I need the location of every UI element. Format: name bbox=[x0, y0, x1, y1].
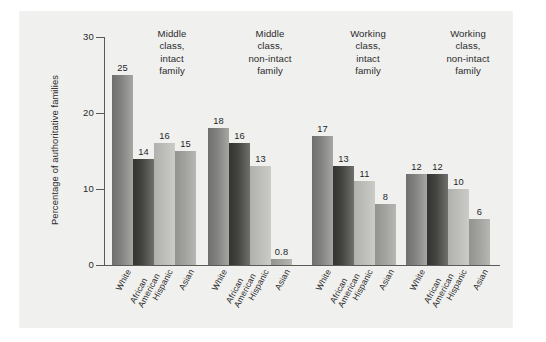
bar-value-g2-white: 18 bbox=[213, 116, 224, 126]
figure-canvas: Percentage of authoritative families 30 … bbox=[0, 0, 546, 342]
y-tick-20 bbox=[96, 113, 105, 114]
plot-area: Percentage of authoritative families 30 … bbox=[0, 0, 546, 342]
x-label-g3-asian: Asian bbox=[378, 268, 397, 292]
bar-g1-white[interactable]: 25 bbox=[112, 75, 133, 265]
group-header-3: Working class, intact family bbox=[338, 28, 398, 78]
bar-value-g3-asian: 8 bbox=[383, 192, 388, 202]
bar-value-g2-asian: 0.8 bbox=[275, 247, 289, 257]
bar-value-g4-white: 12 bbox=[411, 162, 422, 172]
bar-value-g3-african-american: 13 bbox=[338, 154, 349, 164]
bar-g1-african-american[interactable]: 14 bbox=[133, 159, 154, 265]
bar-value-g3-hispanic: 11 bbox=[359, 169, 369, 179]
bar-value-g4-asian: 6 bbox=[477, 207, 482, 217]
bar-g4-african-american[interactable]: 12 bbox=[427, 174, 448, 265]
bar-value-g1-white: 25 bbox=[117, 63, 128, 73]
y-tick-label-10: 10 bbox=[64, 183, 94, 194]
bar-value-g1-african-american: 14 bbox=[138, 147, 149, 157]
bar-g3-african-american[interactable]: 13 bbox=[333, 166, 354, 265]
x-label-g2-asian: Asian bbox=[274, 268, 293, 292]
y-tick-label-20: 20 bbox=[64, 107, 94, 118]
y-tick-10 bbox=[96, 189, 105, 190]
x-label-g1-asian: Asian bbox=[178, 268, 197, 292]
group-header-4: Working class, non-intact family bbox=[432, 28, 504, 78]
y-tick-label-30: 30 bbox=[64, 31, 94, 42]
group-header-1: Middle class, intact family bbox=[142, 28, 202, 78]
bar-value-g4-hispanic: 10 bbox=[453, 177, 464, 187]
bar-g3-asian[interactable]: 8 bbox=[375, 204, 396, 265]
bar-g4-hispanic[interactable]: 10 bbox=[448, 189, 469, 265]
group-header-2: Middle class, non-intact family bbox=[234, 28, 306, 78]
bar-g2-white[interactable]: 18 bbox=[208, 128, 229, 265]
x-label-g4-asian: Asian bbox=[472, 268, 491, 292]
bar-g3-hispanic[interactable]: 11 bbox=[354, 181, 375, 265]
bar-value-g4-african-american: 12 bbox=[432, 162, 443, 172]
y-tick-0 bbox=[96, 265, 105, 266]
bar-g1-asian[interactable]: 15 bbox=[175, 151, 196, 265]
x-label-g1-white: White bbox=[114, 268, 133, 292]
x-label-g2-white: White bbox=[210, 268, 229, 292]
x-label-g3-white: White bbox=[314, 268, 333, 292]
bar-value-g2-hispanic: 13 bbox=[255, 154, 266, 164]
bar-g2-hispanic[interactable]: 13 bbox=[250, 166, 271, 265]
bar-g4-asian[interactable]: 6 bbox=[469, 219, 490, 265]
y-axis-title: Percentage of authoritative families bbox=[49, 75, 60, 225]
bar-g2-african-american[interactable]: 16 bbox=[229, 143, 250, 265]
bar-g2-asian[interactable]: 0.8 bbox=[271, 259, 292, 265]
bar-value-g1-hispanic: 16 bbox=[159, 131, 170, 141]
bar-value-g3-white: 17 bbox=[317, 124, 328, 134]
bar-g1-hispanic[interactable]: 16 bbox=[154, 143, 175, 265]
bar-value-g2-african-american: 16 bbox=[234, 131, 245, 141]
x-label-g4-white: White bbox=[408, 268, 427, 292]
y-axis-line bbox=[104, 37, 105, 266]
bar-value-g1-asian: 15 bbox=[180, 139, 191, 149]
bar-g4-white[interactable]: 12 bbox=[406, 174, 427, 265]
y-tick-label-0: 0 bbox=[64, 259, 94, 270]
x-axis-line bbox=[104, 265, 500, 266]
bar-g3-white[interactable]: 17 bbox=[312, 136, 333, 265]
y-tick-30 bbox=[96, 37, 105, 38]
